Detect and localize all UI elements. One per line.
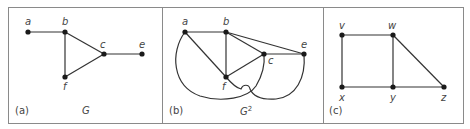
node-f [223, 74, 228, 79]
node-label-e: e [301, 40, 307, 50]
node-label-e: e [139, 40, 145, 50]
graph-figure: a b c e f (a) G a b c e f (b) G2 v w x y… [0, 0, 470, 129]
edge-a-f [185, 32, 226, 77]
node-label-c: c [268, 56, 274, 66]
node-label-b: b [223, 17, 229, 27]
node-e [301, 51, 306, 56]
node-label-a: a [25, 17, 31, 27]
edge-a-c-arc [176, 32, 264, 99]
panel-a-edges [28, 32, 142, 77]
node-y [390, 84, 395, 89]
node-label-c: c [100, 40, 106, 50]
node-e [139, 51, 144, 56]
node-x [339, 84, 344, 89]
edge-f-e-arc [226, 54, 304, 99]
graph-name-a: G [82, 106, 90, 116]
edge-b-c [65, 32, 104, 54]
node-b [223, 29, 228, 34]
node-label-a: a [182, 17, 188, 27]
panel-c-label: (c) [329, 106, 342, 116]
node-f [62, 74, 67, 79]
node-label-b: b [62, 17, 68, 27]
node-v [339, 32, 344, 37]
node-label-y: y [390, 93, 396, 103]
node-label-f: f [222, 82, 226, 92]
node-label-f: f [63, 82, 67, 92]
graph-name-b: G2 [240, 106, 252, 117]
panel-a-label: (a) [15, 106, 29, 116]
node-label-x: x [339, 93, 345, 103]
node-b [62, 29, 67, 34]
node-z [441, 84, 446, 89]
node-w [390, 32, 395, 37]
node-label-v: v [339, 21, 345, 31]
node-label-w: w [388, 21, 396, 31]
edge-f-c [65, 54, 104, 77]
edge-w-z [393, 35, 444, 87]
node-a [182, 29, 187, 34]
figure-canvas [0, 0, 470, 129]
panel-b-label: (b) [169, 106, 183, 116]
node-a [25, 29, 30, 34]
node-c [101, 51, 106, 56]
node-label-z: z [441, 93, 446, 103]
edge-b-c [226, 32, 264, 54]
panel-b-edges [176, 32, 305, 99]
edge-b-e [226, 32, 304, 54]
node-c [261, 51, 266, 56]
edge-f-c [226, 54, 264, 77]
panel-c-edges [342, 35, 444, 87]
